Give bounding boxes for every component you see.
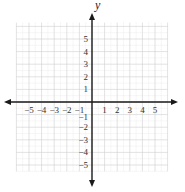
y-tick-label: 3 (84, 59, 89, 69)
x-tick-label: −5 (24, 105, 34, 115)
x-tick-label: 3 (128, 105, 133, 115)
x-tick-label: 4 (140, 105, 145, 115)
x-tick-label: 5 (153, 105, 158, 115)
x-tick-label: 1 (102, 105, 107, 115)
y-tick-label: −2 (78, 122, 88, 132)
y-tick-label: 1 (84, 84, 89, 94)
y-tick-label: −4 (78, 147, 88, 157)
x-axis-right-arrow-icon (171, 99, 178, 105)
coordinate-plane: y −5−4−3−2−112345 54321−1−2−3−4−5 (0, 0, 185, 192)
y-tick-label: −3 (78, 135, 88, 145)
x-tick-label: −4 (37, 105, 47, 115)
y-tick-label: −1 (78, 112, 88, 122)
y-axis-up-arrow-icon (89, 13, 95, 20)
y-tick-label: 4 (84, 47, 89, 57)
x-tick-labels: −5−4−3−2−112345 (24, 105, 158, 115)
y-axis-down-arrow-icon (89, 180, 95, 187)
x-tick-label: −3 (49, 105, 59, 115)
x-axis-left-arrow-icon (4, 99, 11, 105)
y-tick-label: 2 (84, 72, 89, 82)
x-tick-label: −2 (62, 105, 72, 115)
y-tick-label: 5 (84, 34, 89, 44)
y-tick-label: −5 (78, 160, 88, 170)
x-tick-label: 2 (115, 105, 120, 115)
y-axis-label: y (94, 0, 101, 12)
